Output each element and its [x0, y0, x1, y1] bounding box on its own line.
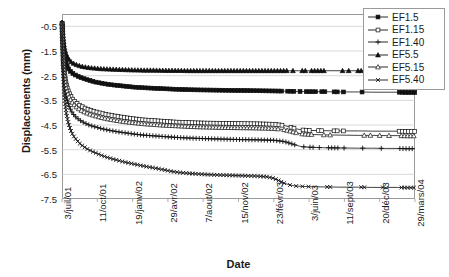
x-axis-title: Date: [62, 258, 415, 270]
legend-label: EF1.5: [392, 12, 419, 23]
legend-label: EF1.15: [392, 24, 424, 35]
legend-label: EF1.40: [392, 37, 424, 48]
legend-item-ef1-15[interactable]: EF1.15: [367, 24, 442, 37]
legend-label: EF5.15: [392, 62, 424, 73]
legend-item-ef5-5[interactable]: EF5.5: [367, 49, 442, 62]
legend-item-ef5-15[interactable]: EF5.15: [367, 61, 442, 74]
legend-marker-icon: [367, 24, 389, 36]
legend-item-ef5-40[interactable]: EF5.40: [367, 74, 442, 87]
y-tick-label: -5.5: [17, 144, 57, 155]
legend-item-ef1-40[interactable]: EF1.40: [367, 36, 442, 49]
y-tick-label: -3.5: [17, 95, 57, 106]
legend-label: EF5.40: [392, 74, 424, 85]
legend-marker-icon: [367, 36, 389, 48]
legend-marker-icon: [367, 11, 389, 23]
y-tick-label: -6.5: [17, 169, 57, 180]
legend-item-ef1-5[interactable]: EF1.5: [367, 11, 442, 24]
y-tick-label: -1.5: [17, 46, 57, 57]
legend-marker-icon: [367, 49, 389, 61]
legend-marker-icon: [367, 74, 389, 86]
y-tick-label: -4.5: [17, 120, 57, 131]
legend-marker-icon: [367, 61, 389, 73]
y-tick-label: -0.5: [17, 21, 57, 32]
legend-label: EF5.5: [392, 49, 419, 60]
displacements-chart: Displacements (mm) Date -0.5-1.5-2.5-3.5…: [0, 0, 449, 277]
y-tick-label: -7.5: [17, 194, 57, 205]
chart-legend: EF1.5EF1.15EF1.40EF5.5EF5.15EF5.40: [363, 8, 445, 90]
y-tick-label: -2.5: [17, 70, 57, 81]
